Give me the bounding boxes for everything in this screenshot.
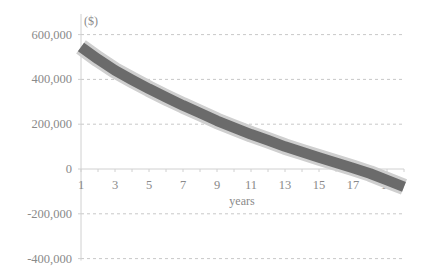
x-tick-label: 7 [180, 178, 186, 192]
y-tick-label: 400,000 [31, 72, 72, 86]
x-tick-label: 17 [347, 178, 360, 192]
y-axis-unit-label: ($) [84, 14, 98, 28]
y-tick-label: 200,000 [31, 117, 72, 131]
series-line [81, 47, 404, 187]
x-tick-label: 15 [313, 178, 326, 192]
x-tick-label: 1 [78, 178, 84, 192]
y-tick-label: -400,000 [27, 252, 72, 266]
x-tick-label: 13 [279, 178, 292, 192]
x-tick-label: 3 [112, 178, 118, 192]
y-axis: 600,000400,000200,0000-200,000-400,000 [27, 14, 81, 266]
chart: 600,000400,000200,0000-200,000-400,000 1… [0, 0, 423, 277]
series-area [81, 47, 404, 187]
x-axis-title: years [229, 194, 255, 208]
y-tick-label: 0 [66, 162, 72, 176]
x-tick-label: 9 [214, 178, 220, 192]
y-tick-label: 600,000 [31, 28, 72, 42]
x-tick-label: 11 [245, 178, 257, 192]
gridlines [81, 35, 404, 259]
y-tick-label: -200,000 [27, 207, 72, 221]
x-tick-label: 5 [146, 178, 152, 192]
